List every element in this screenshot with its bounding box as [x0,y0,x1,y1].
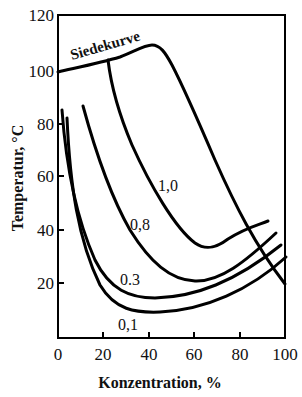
curve-0-1 [67,118,286,312]
x-tick-label: 80 [232,345,249,364]
x-axis-title: Konzentration, % [98,374,222,391]
x-tick-label: 60 [186,345,203,364]
x-tick-label: 100 [272,345,298,364]
curve-label-0-1: 0,1 [118,316,138,333]
curve-label-0-8: 0,8 [130,216,150,233]
x-tick-label: 40 [141,345,158,364]
curve-0-8 [83,106,276,281]
curve-label-1-0: 1,0 [158,177,178,194]
siedekurve-label: Siedekurve [68,28,142,63]
y-tick-label: 80 [37,115,54,134]
y-tick-label: 60 [37,167,54,186]
y-tick-label: 120 [29,6,55,25]
y-axis-title: Temperatur, °C [9,125,27,232]
x-tick-label: 0 [54,345,63,364]
siedekurve-curve [58,45,285,284]
y-tick-label: 20 [37,274,54,293]
curve-label-0-3: 0.3 [120,271,140,288]
y-tick-label: 100 [29,62,55,81]
x-tick-label: 20 [95,345,112,364]
y-tick-label: 40 [37,221,54,240]
chart: 20 40 60 80 100 120 0 20 40 60 80 100 Ko… [0,0,302,397]
